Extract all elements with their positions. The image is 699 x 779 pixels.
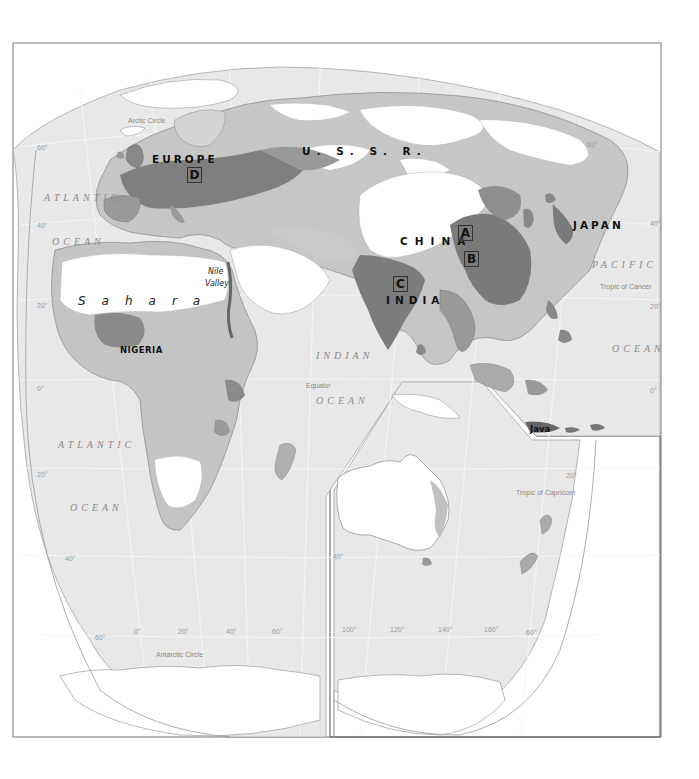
label-atlantic-south: ATLANTIC [58, 440, 135, 450]
tick-lon-20: 20° [178, 628, 189, 635]
tick-lat-right-20n: 20° [650, 303, 661, 310]
label-india: INDIA [386, 295, 444, 306]
label-tropic-cancer: Tropic of Cancer [600, 283, 651, 290]
tick-lat-right-60n: 60° [587, 141, 598, 148]
tick-lon-60: 60° [272, 628, 283, 635]
label-tropic-capricorn: Tropic of Capricorn [516, 489, 575, 496]
tick-lon-140: 140° [438, 626, 452, 633]
label-ussr: U. S. S. R. [302, 146, 427, 157]
marker-box-d: D [187, 167, 202, 183]
tick-lat-right-20s: 20° [566, 472, 577, 479]
label-sahara: Sahara [78, 295, 216, 307]
label-antarctic-circle: Antarctic Circle [156, 651, 203, 658]
label-pacific: PACIFIC [592, 260, 657, 270]
label-atlantic-north-ocean: OCEAN [52, 237, 105, 247]
tick-lon-100: 100° [342, 626, 356, 633]
marker-box-a: A [458, 225, 473, 241]
label-arctic-circle: Arctic Circle [128, 117, 165, 124]
tick-lon-160: 160° [484, 626, 498, 633]
tick-lat-left-0: 0° [37, 385, 44, 392]
tick-lon-0: 0° [134, 628, 141, 635]
tick-lat-left-60s: 60° [95, 634, 106, 641]
label-japan: JAPAN [573, 220, 624, 231]
tick-lat-inset-60s: 60° [526, 629, 537, 636]
tick-lat-left-60n: 60° [37, 144, 48, 151]
label-indian-ocean: OCEAN [316, 396, 369, 406]
tick-lat-right-40n: 40° [650, 220, 661, 227]
tick-lon-120: 120° [390, 626, 404, 633]
label-atlantic-south-ocean: OCEAN [70, 503, 123, 513]
label-nile: Nile [208, 268, 223, 276]
map-canvas [0, 0, 699, 779]
marker-box-c: C [393, 276, 408, 292]
tick-lat-left-40s: 40° [65, 555, 76, 562]
tick-lat-inset-40s: 40° [333, 553, 344, 560]
label-java: Java [530, 425, 550, 434]
population-density-map: EUROPE U. S. S. R. CHINA JAPAN INDIA NIG… [0, 0, 699, 779]
tick-lon-40: 40° [226, 628, 237, 635]
label-indian: INDIAN [316, 351, 373, 361]
label-europe: EUROPE [152, 154, 218, 165]
marker-box-b: B [464, 251, 479, 267]
label-pacific-ocean: OCEAN [612, 344, 665, 354]
label-equator: Equator [306, 382, 331, 389]
tick-lat-left-20s: 20° [37, 471, 48, 478]
tick-lat-right-0: 0° [650, 387, 657, 394]
tick-lat-left-40n: 40° [37, 222, 48, 229]
label-valley: Valley [205, 280, 229, 288]
label-nigeria: NIGERIA [120, 346, 163, 355]
label-atlantic-north: ATLANTIC [44, 193, 121, 203]
tick-lat-left-20n: 20° [37, 302, 48, 309]
